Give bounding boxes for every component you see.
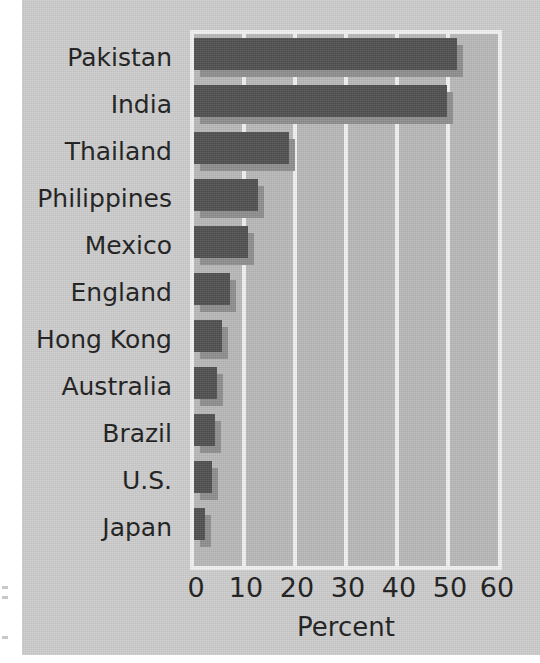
bar-brazil[interactable] [194,414,215,446]
x-axis-title: Percent [190,612,502,642]
y-label-philippines: Philippines [37,175,172,222]
y-label-hong-kong: Hong Kong [36,316,172,363]
bar-australia[interactable] [194,367,217,399]
x-tick-40: 40 [382,572,416,603]
bar-england[interactable] [194,273,230,305]
y-label-australia: Australia [61,363,172,410]
bar-india[interactable] [194,85,447,117]
x-tick-10: 10 [229,572,263,603]
y-label-india: India [111,81,172,128]
x-tick-20: 20 [280,572,314,603]
scan-edge-mark [2,596,8,599]
bar-pakistan[interactable] [194,38,457,70]
y-label-japan: Japan [102,504,172,551]
bar-series [190,30,502,570]
y-label-pakistan: Pakistan [67,34,172,81]
bar-us[interactable] [194,461,212,493]
bar-japan[interactable] [194,508,205,540]
x-tick-30: 30 [331,572,365,603]
y-label-mexico: Mexico [85,222,172,269]
bar-philippines[interactable] [194,179,258,211]
bar-hong-kong[interactable] [194,320,222,352]
x-tick-60: 60 [480,572,514,603]
x-axis-ticks: 0 10 20 30 40 50 60 [190,572,502,608]
scan-edge-mark [2,586,8,589]
y-label-brazil: Brazil [102,410,172,457]
y-label-us: U.S. [122,457,172,504]
bar-thailand[interactable] [194,132,289,164]
bar-mexico[interactable] [194,226,248,258]
y-label-thailand: Thailand [65,128,172,175]
y-axis-labels: Pakistan India Thailand Philippines Mexi… [22,30,184,570]
chart-figure: Pakistan India Thailand Philippines Mexi… [22,0,540,655]
x-tick-50: 50 [433,572,467,603]
x-tick-0: 0 [187,572,204,603]
y-label-england: England [71,269,173,316]
scan-edge-mark [2,636,8,639]
